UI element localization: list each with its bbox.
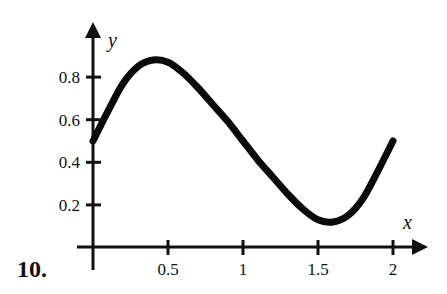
function-curve	[93, 60, 393, 222]
function-graph: 0.511.52 0.20.40.60.8 x y 10.	[0, 0, 447, 294]
x-tick-label: 1.5	[307, 260, 328, 279]
x-tick-label: 2	[389, 260, 398, 279]
y-tick-label: 0.6	[59, 111, 80, 130]
y-tick-label: 0.4	[59, 153, 81, 172]
y-tick-label: 0.2	[59, 196, 80, 215]
x-axis-label: x	[402, 211, 412, 233]
x-tick-label: 1	[239, 260, 248, 279]
x-tick-label: 0.5	[157, 260, 178, 279]
y-axis-label: y	[106, 29, 117, 52]
x-axis-arrow-icon	[412, 239, 428, 255]
y-axis-arrow-icon	[85, 22, 101, 38]
y-tick-label: 0.8	[59, 68, 80, 87]
problem-number: 10.	[17, 256, 47, 282]
